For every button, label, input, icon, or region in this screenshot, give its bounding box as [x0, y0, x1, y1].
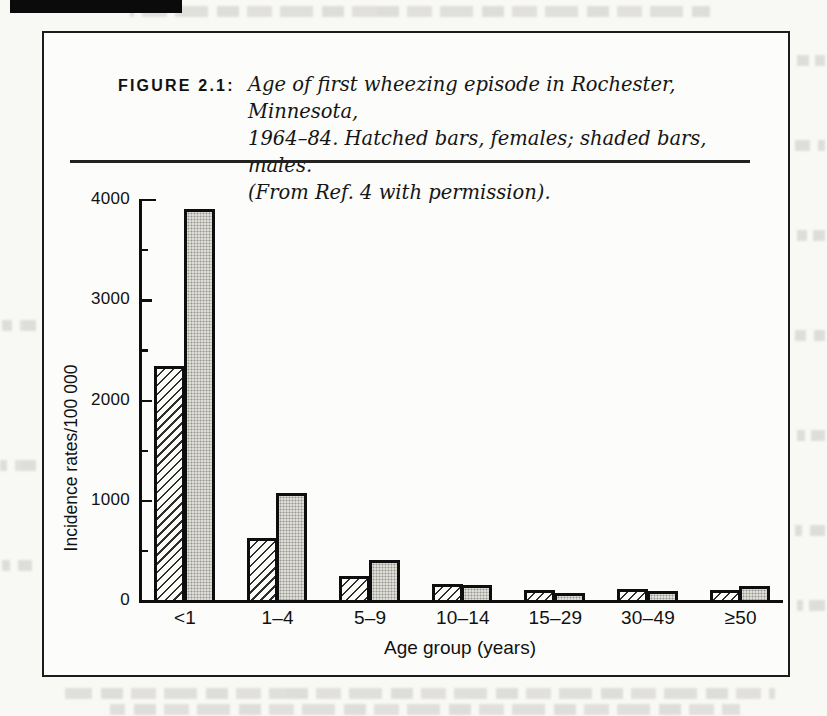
y-major-tick: [139, 299, 152, 301]
x-tick-label: 1–4: [233, 607, 323, 629]
x-tick-label: 10–14: [418, 607, 508, 629]
ghost-text-row: [795, 140, 825, 151]
x-tick-label: <1: [140, 607, 230, 629]
ghost-text-row: [2, 320, 36, 331]
y-minor-tick: [139, 450, 148, 452]
y-major-tick: [139, 199, 156, 201]
x-tick-label: 15–29: [510, 607, 600, 629]
bar-males-4: [554, 593, 585, 603]
x-tick-label: 5–9: [325, 607, 415, 629]
y-tick-label: 2000: [62, 389, 130, 409]
ghost-text-row: [795, 525, 825, 536]
ghost-text-row: [130, 6, 710, 17]
bar-males-5: [647, 591, 678, 603]
y-tick-label: 4000: [62, 189, 130, 209]
ghost-text-row: [0, 460, 36, 471]
figure-box: FIGURE 2.1: Age of first wheezing episod…: [42, 31, 790, 677]
bar-females-6: [710, 590, 741, 603]
y-minor-tick: [139, 249, 148, 251]
scanned-page: FIGURE 2.1: Age of first wheezing episod…: [0, 0, 827, 716]
ghost-text-row: [2, 560, 32, 571]
x-axis-title: Age group (years): [350, 637, 570, 659]
bar-females-0: [154, 366, 185, 603]
y-tick-label: 0: [62, 590, 130, 610]
ghost-text-row: [797, 600, 825, 611]
ghost-text-row: [797, 230, 825, 241]
y-major-tick: [139, 600, 152, 602]
bar-males-3: [461, 585, 492, 603]
bar-females-3: [432, 584, 463, 603]
x-tick-label: 30–49: [603, 607, 693, 629]
bar-males-1: [276, 493, 307, 603]
bar-males-2: [369, 560, 400, 603]
scan-artifact-bar: [10, 0, 182, 13]
bar-males-0: [184, 209, 215, 603]
y-tick-label: 3000: [62, 289, 130, 309]
ghost-text-row: [110, 704, 740, 715]
ghost-text-row: [797, 430, 825, 441]
y-minor-tick: [139, 349, 148, 351]
bar-females-5: [617, 589, 648, 603]
x-tick-label: ≥50: [696, 607, 786, 629]
ghost-text-row: [795, 330, 825, 341]
bar-females-1: [247, 538, 278, 603]
y-minor-tick: [139, 550, 148, 552]
y-major-tick: [139, 500, 152, 502]
bar-females-2: [339, 576, 370, 603]
y-tick-label: 1000: [62, 489, 130, 509]
ghost-text-row: [797, 55, 825, 66]
ghost-text-row: [65, 688, 775, 699]
y-axis-title: Incidence rates/100 000: [61, 327, 83, 589]
bar-chart: Incidence rates/100 000 0100020003000400…: [44, 33, 788, 675]
y-major-tick: [139, 400, 152, 402]
bar-males-6: [739, 586, 770, 603]
bar-females-4: [524, 590, 555, 603]
